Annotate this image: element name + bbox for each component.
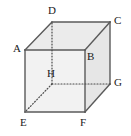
vertex-label-d: D xyxy=(48,5,56,16)
vertex-label-b: B xyxy=(87,51,94,62)
vertex-label-a: A xyxy=(13,43,21,54)
front-face xyxy=(25,50,85,112)
vertex-label-f: F xyxy=(80,117,86,128)
vertex-label-c: C xyxy=(114,15,121,26)
vertex-label-g: G xyxy=(114,77,122,88)
vertex-label-h: H xyxy=(47,68,55,79)
vertex-label-e: E xyxy=(20,117,27,128)
cube-figure: ABCDEFGH xyxy=(0,0,131,136)
